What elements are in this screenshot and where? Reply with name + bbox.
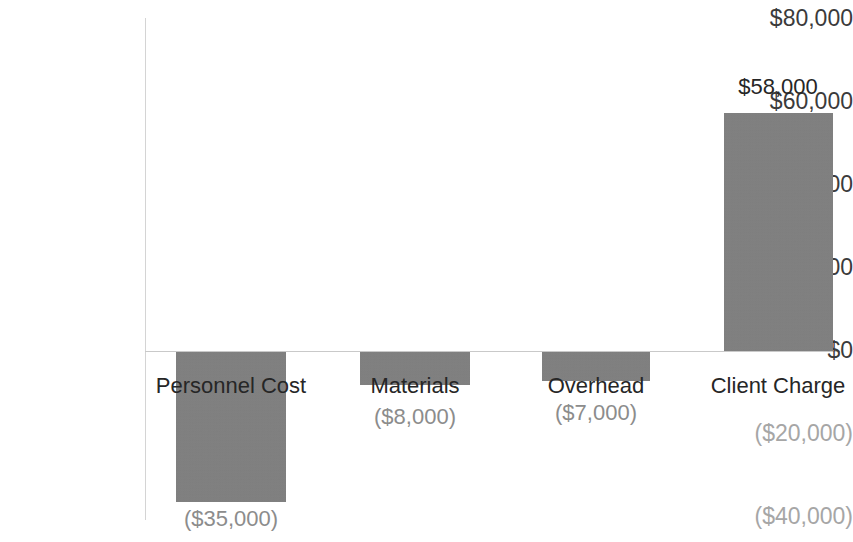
y-axis-tick-label: ($40,000)	[716, 505, 853, 528]
y-axis-line	[145, 18, 146, 520]
value-label-overhead: ($7,000)	[516, 402, 676, 424]
y-axis-tick-label: $80,000	[716, 7, 853, 30]
bar-chart: $80,000 $60,000 $40,000 $20,000 $0 ($20,…	[0, 0, 853, 542]
value-label-materials: ($8,000)	[335, 406, 495, 428]
value-label-personnel-cost: ($35,000)	[151, 508, 311, 530]
bar-client-charge[interactable]	[724, 113, 833, 351]
category-label-overhead: Overhead	[516, 375, 676, 397]
category-label-personnel-cost: Personnel Cost	[151, 375, 311, 397]
category-label-client-charge: Client Charge	[698, 375, 853, 397]
value-label-client-charge: $58,000	[698, 76, 853, 98]
y-axis-tick-label: ($20,000)	[716, 422, 853, 445]
category-label-materials: Materials	[335, 375, 495, 397]
